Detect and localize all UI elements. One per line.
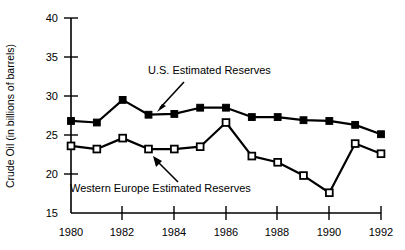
chart-plot-area: 40 35 30 25 20 15 1980 1982 1984 1986 19… <box>0 0 405 250</box>
y-tick-label-15: 15 <box>46 207 58 219</box>
data-point <box>326 118 333 125</box>
data-point <box>171 111 178 118</box>
data-point <box>93 119 100 126</box>
data-point <box>326 189 333 196</box>
x-tick-label-1984: 1984 <box>162 226 186 238</box>
data-point <box>378 131 385 138</box>
data-point <box>119 135 126 142</box>
data-point <box>223 104 230 111</box>
we-annotation-label: Western Europe Estimated Reserves <box>70 182 251 194</box>
data-point <box>300 172 307 179</box>
data-point <box>248 153 255 160</box>
x-axis-tick-labels: 1980 1982 1984 1986 1988 1990 1992 <box>59 226 393 238</box>
y-axis-title: Crude Oil (in billions of barrels) <box>4 44 16 188</box>
x-tick-label-1982: 1982 <box>110 226 134 238</box>
data-point <box>171 146 178 153</box>
x-tick-label-1988: 1988 <box>265 226 289 238</box>
y-tick-label-20: 20 <box>46 168 58 180</box>
x-tick-label-1980: 1980 <box>59 226 83 238</box>
data-point <box>93 146 100 153</box>
y-tick-label-30: 30 <box>46 90 58 102</box>
data-point <box>274 114 281 121</box>
data-point <box>68 143 75 150</box>
series-markers-us <box>68 97 385 138</box>
data-point <box>248 114 255 121</box>
y-tick-label-35: 35 <box>46 51 58 63</box>
y-tick-label-40: 40 <box>46 12 58 24</box>
us-annotation-group: U.S. Estimated Reserves <box>148 64 271 112</box>
us-annotation-arrow-shaft <box>160 82 184 108</box>
data-point <box>352 140 359 147</box>
y-tick-label-25: 25 <box>46 129 58 141</box>
data-point <box>197 143 204 150</box>
crude-oil-reserves-chart: 40 35 30 25 20 15 1980 1982 1984 1986 19… <box>0 0 405 250</box>
us-annotation-arrow-head <box>157 104 166 112</box>
data-point <box>145 111 152 118</box>
x-tick-label-1986: 1986 <box>214 226 238 238</box>
data-point <box>68 118 75 125</box>
data-point <box>145 146 152 153</box>
y-axis-tick-labels: 40 35 30 25 20 15 <box>46 12 58 219</box>
data-point <box>352 121 359 128</box>
we-annotation-group: Western Europe Estimated Reserves <box>70 156 251 194</box>
data-point <box>223 119 230 126</box>
data-point <box>378 150 385 157</box>
series-us-estimated-reserves <box>68 97 385 138</box>
data-point <box>197 104 204 111</box>
data-point <box>274 159 281 166</box>
x-tick-label-1992: 1992 <box>369 226 393 238</box>
data-point <box>300 117 307 124</box>
us-annotation-label: U.S. Estimated Reserves <box>148 64 271 76</box>
data-point <box>119 97 126 104</box>
x-tick-label-1990: 1990 <box>317 226 341 238</box>
